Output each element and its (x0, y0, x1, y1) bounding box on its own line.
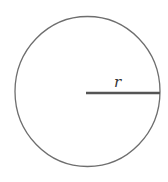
radius-label: r (114, 73, 122, 91)
circle-outline (15, 17, 160, 167)
circle-diagram: r (0, 0, 168, 182)
